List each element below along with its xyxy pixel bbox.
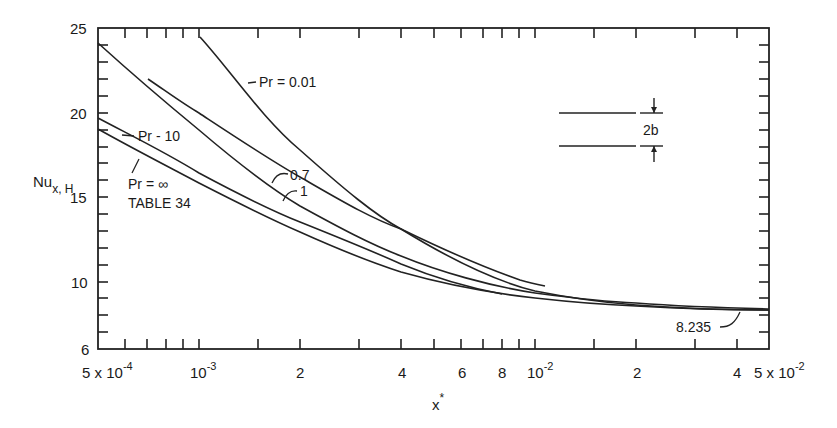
- y-tick-20: 20: [70, 105, 87, 122]
- x-tick-1e-3: 10-3: [190, 360, 216, 381]
- label-pr-inf: Pr = ∞: [128, 176, 168, 192]
- curve-pr-0.7: [148, 79, 545, 286]
- x-axis-label: x*: [432, 391, 445, 413]
- y-tick-6: 6: [81, 341, 89, 358]
- x-tick-8e-3: 8: [498, 364, 506, 381]
- x-tick-2e-2: 2: [633, 364, 641, 381]
- arrow-down-icon: [651, 107, 657, 113]
- x-tick-1e-2: 10-2: [527, 360, 553, 381]
- plot-frame: [98, 28, 769, 349]
- x-ticks-top: [125, 28, 737, 38]
- x-tick-5e-2: 5 x 10-2: [754, 360, 805, 381]
- label-table-34: TABLE 34: [128, 195, 191, 211]
- y-axis-label-sub: x, H: [52, 182, 73, 196]
- nusselt-chart: 25 20 15 10 6 Nux, H 5 x 10-4 10-3 2 4 6…: [0, 0, 837, 428]
- label-asymptote: 8.235: [676, 319, 711, 335]
- label-pr-0.01: Pr = 0.01: [259, 74, 316, 90]
- curve-pr-inf: [98, 129, 769, 310]
- x-tick-6e-3: 6: [458, 364, 466, 381]
- leader-pr-0.7: [272, 173, 288, 183]
- x-tick-4e-3: 4: [398, 364, 406, 381]
- leader-asymptote: [720, 312, 740, 327]
- label-2b: 2b: [643, 122, 659, 138]
- y-ticks-right: [759, 45, 769, 332]
- curve-pr-1: [98, 43, 769, 309]
- label-pr-0.7: 0.7: [290, 167, 310, 183]
- x-tick-4e-2: 4: [733, 364, 741, 381]
- y-axis-label-main: Nu: [33, 173, 52, 190]
- x-tick-5e-4: 5 x 10-4: [82, 360, 133, 381]
- y-ticks-left: [98, 45, 108, 332]
- leader-pr-inf: [132, 159, 139, 173]
- x-ticks-bottom: [125, 339, 737, 349]
- x-tick-2e-3: 2: [296, 364, 304, 381]
- y-tick-10: 10: [71, 274, 88, 291]
- y-tick-25: 25: [70, 20, 87, 37]
- y-axis-label: Nux, H: [33, 173, 74, 196]
- leader-pr-0.01: [248, 82, 256, 83]
- arrow-up-icon: [651, 146, 657, 152]
- label-pr-10: Pr - 10: [138, 128, 180, 144]
- label-pr-1: 1: [300, 183, 308, 199]
